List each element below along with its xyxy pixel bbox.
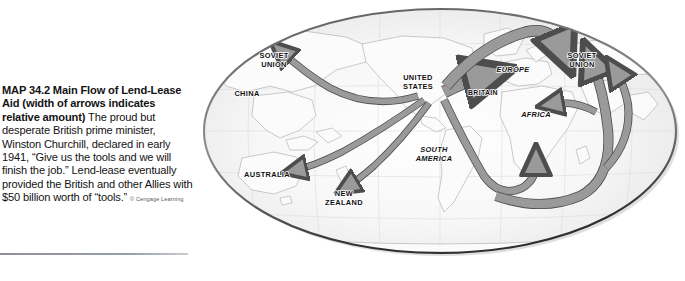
map-caption: MAP 34.2 Main Flow of Lend-Lease Aid (wi… [2,84,194,207]
label-new-zealand-line1: NEW [335,189,353,198]
label-britain: BRITAIN [468,89,498,96]
caption-divider [0,253,188,255]
label-united-states-line1: UNITED [403,73,433,82]
caption-paragraph: MAP 34.2 Main Flow of Lend-Lease Aid (wi… [2,84,194,207]
caption-credit: © Cengage Learning [130,196,184,202]
label-soviet-union-west-line2: UNION [261,60,287,69]
caption-body: The proud but desperate British prime mi… [2,111,192,203]
label-soviet-union-west-line1: SOVIET [259,51,288,60]
label-africa: AFRICA [520,110,551,119]
label-south-america-line1: SOUTH [420,145,448,154]
lend-lease-map: SOVIET UNION CHINA UNITED STATES BRITAIN… [196,0,685,281]
land-tasmania [280,196,292,205]
label-soviet-union-east-line1: SOVIET [567,51,596,60]
label-new-zealand-line2: ZEALAND [325,198,363,207]
label-south-america-line2: AMERICA [415,154,453,163]
label-soviet-union-east-line2: UNION [569,60,595,69]
label-united-states-line2: STATES [403,82,433,91]
label-china: CHINA [234,89,259,98]
label-europe: EUROPE [496,65,530,74]
label-australia: AUSTRALIA [244,170,290,179]
